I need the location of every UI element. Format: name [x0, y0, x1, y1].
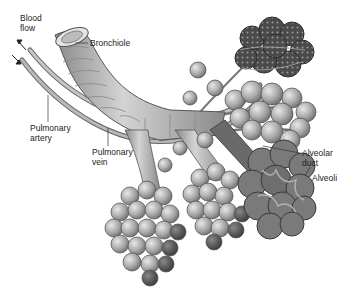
- alveoli-diagram: Blood flow Bronchiole Pulmonary artery P…: [0, 0, 354, 288]
- capillary-network: [235, 17, 314, 77]
- label-bronchiole: Bronchiole: [90, 38, 130, 48]
- label-alveoli: Alveoli: [312, 173, 337, 183]
- label-pulmonary-artery: Pulmonary artery: [30, 123, 71, 143]
- label-alveolar-duct: Alveolar duct: [302, 148, 333, 168]
- label-blood-flow: Blood flow: [20, 13, 42, 33]
- label-pulmonary-vein: Pulmonary vein: [92, 147, 133, 167]
- alveolar-sac-lower-left: [105, 181, 186, 286]
- bronchiole: [53, 24, 225, 140]
- diagram-illustration: [0, 0, 354, 288]
